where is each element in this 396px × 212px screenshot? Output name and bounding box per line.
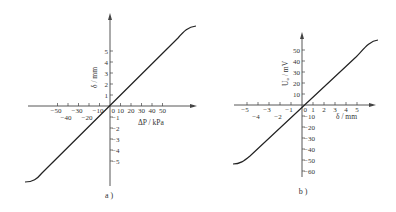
chart-a-x-tick-label: 30 xyxy=(138,107,146,115)
chart-b-x-tick-label: −4 xyxy=(252,113,260,121)
chart-b-y-tick-label: −10 xyxy=(304,113,315,121)
chart-a-x-arrow-icon xyxy=(190,104,197,108)
chart-a-y-tick-label: 1 xyxy=(105,92,109,100)
chart-b-x-tick-label: −2 xyxy=(274,113,282,121)
figure: 0 10 20 30 40 50 −50 −30 −10 −40 −20 1 2… xyxy=(0,0,396,212)
chart-b-x-tick-label: −1 xyxy=(285,106,293,114)
chart-b-x-tick-label: 2 xyxy=(322,106,326,114)
chart-a-x-tick-label: 20 xyxy=(128,107,136,115)
chart-a-curve xyxy=(25,26,196,182)
chart-a: 0 10 20 30 40 50 −50 −30 −10 −40 −20 1 2… xyxy=(25,13,197,200)
chart-a-y-tick-label: −2 xyxy=(112,125,120,133)
chart-a-x-tick-label: −40 xyxy=(61,114,72,122)
chart-b-x-axis-label: δ / mm xyxy=(336,112,357,121)
chart-a-x-tick-label: 50 xyxy=(159,107,167,115)
chart-b-y-arrow-icon xyxy=(300,32,304,39)
chart-b-y-tick-label: −20 xyxy=(304,124,315,132)
chart-a-x-tick-label: 40 xyxy=(149,107,157,115)
chart-a-x-tick-label: −20 xyxy=(82,114,93,122)
chart-b-x-tick-label: −5 xyxy=(241,106,249,114)
chart-b-y-axis-label: U₀ / mV xyxy=(281,60,290,86)
chart-a-y-tick-label: −5 xyxy=(112,158,120,166)
chart-a-x-axis-label: ΔP / kPa xyxy=(138,118,164,127)
chart-b-y-tick-label: −50 xyxy=(304,157,315,165)
chart-a-y-tick-label: 5 xyxy=(105,48,109,56)
chart-a-y-arrow-icon xyxy=(108,13,112,20)
chart-b-y-tick-label: 30 xyxy=(293,69,301,77)
chart-a-y-tick-label: −4 xyxy=(112,147,120,155)
chart-a-y-tick-label: −3 xyxy=(112,136,120,144)
chart-b-caption: b ) xyxy=(299,187,308,196)
chart-a-caption: a ) xyxy=(105,191,114,200)
chart-b-y-tick-label: 50 xyxy=(293,47,301,55)
chart-b-x-arrow-icon xyxy=(369,103,376,107)
chart-b-y-tick-label: 20 xyxy=(293,80,301,88)
chart-a-y-tick-label: 2 xyxy=(105,81,109,89)
chart-b-y-tick-label: −40 xyxy=(304,146,315,154)
chart-b-y-tick-label: −30 xyxy=(304,135,315,143)
chart-b-y-tick-label: 40 xyxy=(293,58,301,66)
chart-a-y-axis-label: δ / mm xyxy=(90,67,99,88)
chart-a-y-tick-label: −1 xyxy=(112,114,120,122)
chart-a-y-tick-label: 4 xyxy=(105,59,109,67)
chart-b-y-tick-label: 10 xyxy=(293,91,301,99)
chart-b-y-tick-label: −60 xyxy=(304,168,315,176)
chart-b-x-tick-label: −3 xyxy=(263,106,271,114)
chart-a-y-tick-label: 3 xyxy=(105,70,109,78)
chart-b: 0 1 2 3 4 5 −5 −3 −1 −4 −2 10 20 30 40 5… xyxy=(233,32,378,196)
